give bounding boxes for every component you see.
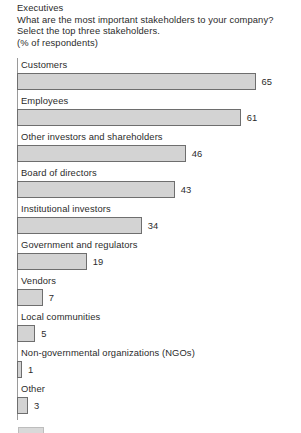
question-instruction: Select the top three stakeholders. xyxy=(17,25,295,37)
bar xyxy=(17,289,43,306)
bar xyxy=(17,361,22,378)
figure-header: Executives What are the most important s… xyxy=(17,2,295,48)
cut-off-bar xyxy=(18,427,44,433)
bar-row: Other investors and shareholders46 xyxy=(0,130,301,166)
bar-container: 19 xyxy=(17,253,103,270)
bar xyxy=(17,217,142,234)
bar-container: 34 xyxy=(17,217,158,234)
bar-row: Board of directors43 xyxy=(0,166,301,202)
bar-row: Vendors7 xyxy=(0,274,301,310)
bar-row: Local communities5 xyxy=(0,310,301,346)
bar-container: 61 xyxy=(17,109,257,126)
bar-row: Other3 xyxy=(0,382,301,418)
bar-value-label: 46 xyxy=(192,148,202,160)
bar-category-label: Other xyxy=(21,383,45,395)
bar-row: Non-governmental organizations (NGOs)1 xyxy=(0,346,301,382)
bar-container: 65 xyxy=(17,73,272,90)
bar-value-label: 5 xyxy=(41,328,46,340)
bar xyxy=(17,253,87,270)
bar xyxy=(17,325,35,342)
bar-container: 5 xyxy=(17,325,47,342)
bar xyxy=(17,73,256,90)
units-label: (% of respondents) xyxy=(17,37,295,49)
bar-category-label: Local communities xyxy=(21,311,100,323)
bar-value-label: 61 xyxy=(247,112,257,124)
bar-row: Customers65 xyxy=(0,58,301,94)
bar-row: Employees61 xyxy=(0,94,301,130)
bar-value-label: 7 xyxy=(49,292,54,304)
bar-container: 7 xyxy=(17,289,54,306)
question-title: What are the most important stakeholders… xyxy=(17,14,295,26)
bar-category-label: Non-governmental organizations (NGOs) xyxy=(21,347,195,359)
audience-label: Executives xyxy=(17,2,295,14)
bar-container: 1 xyxy=(17,361,33,378)
bar-category-label: Customers xyxy=(21,59,67,71)
horizontal-bar-chart: Customers65Employees61Other investors an… xyxy=(0,58,301,432)
bar-container: 43 xyxy=(17,181,191,198)
bar-container: 3 xyxy=(17,397,39,414)
bar-rows: Customers65Employees61Other investors an… xyxy=(0,58,301,418)
bar-row: Institutional investors34 xyxy=(0,202,301,238)
bar-category-label: Vendors xyxy=(21,275,56,287)
bar-category-label: Board of directors xyxy=(21,167,97,179)
bar xyxy=(17,181,175,198)
bar-row: Government and regulators19 xyxy=(0,238,301,274)
bar-category-label: Employees xyxy=(21,95,68,107)
bar-value-label: 19 xyxy=(93,256,103,268)
bar xyxy=(17,397,28,414)
bar-value-label: 3 xyxy=(34,400,39,412)
bar-value-label: 65 xyxy=(262,76,272,88)
bar xyxy=(17,145,186,162)
bar-value-label: 43 xyxy=(181,184,191,196)
bar-container: 46 xyxy=(17,145,202,162)
bar-value-label: 1 xyxy=(28,364,33,376)
bar-category-label: Institutional investors xyxy=(21,203,111,215)
bar-value-label: 34 xyxy=(148,220,158,232)
bar xyxy=(17,109,241,126)
bar-category-label: Other investors and shareholders xyxy=(21,131,163,143)
bar-category-label: Government and regulators xyxy=(21,239,137,251)
